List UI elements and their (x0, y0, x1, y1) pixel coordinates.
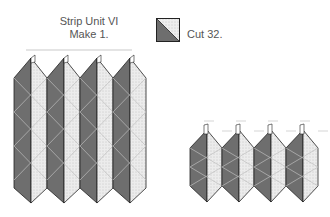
strip-diagram (0, 0, 330, 217)
assembled-strip (14, 50, 146, 203)
pressed-strip (190, 121, 328, 202)
